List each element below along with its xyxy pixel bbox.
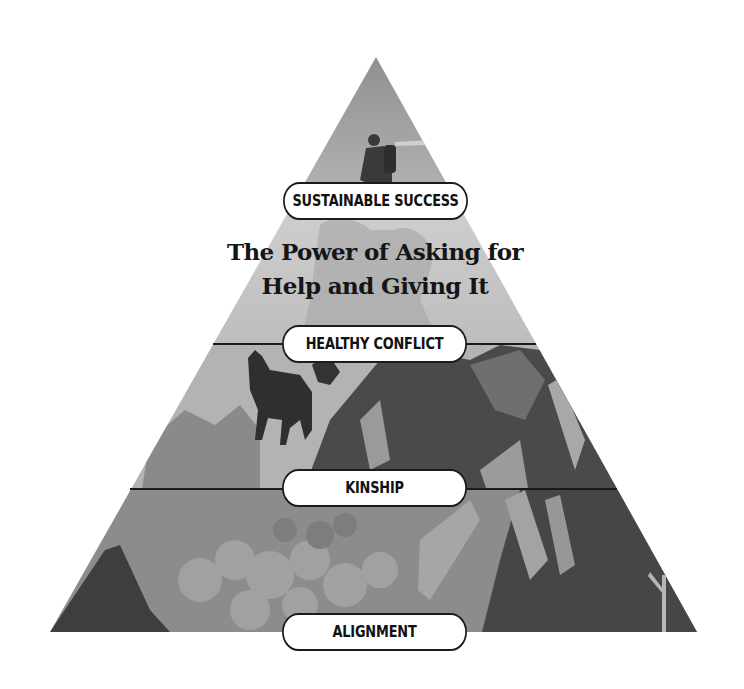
pyramid-title-line-2: Help and Giving It	[180, 269, 570, 303]
level-text: HEALTHY CONFLICT	[306, 335, 444, 353]
level-text: ALIGNMENT	[332, 623, 416, 641]
level-label-alignment: ALIGNMENT	[282, 613, 467, 651]
level-text: SUSTAINABLE SUCCESS	[292, 192, 458, 210]
level-label-sustainable-success: SUSTAINABLE SUCCESS	[283, 182, 468, 220]
level-text: KINSHIP	[345, 479, 404, 497]
level-label-kinship: KINSHIP	[282, 469, 467, 507]
pyramid-title-line-1: The Power of Asking for	[180, 235, 570, 269]
pyramid-diagram: The Power of Asking for Help and Giving …	[0, 0, 744, 689]
level-label-healthy-conflict: HEALTHY CONFLICT	[282, 325, 467, 363]
